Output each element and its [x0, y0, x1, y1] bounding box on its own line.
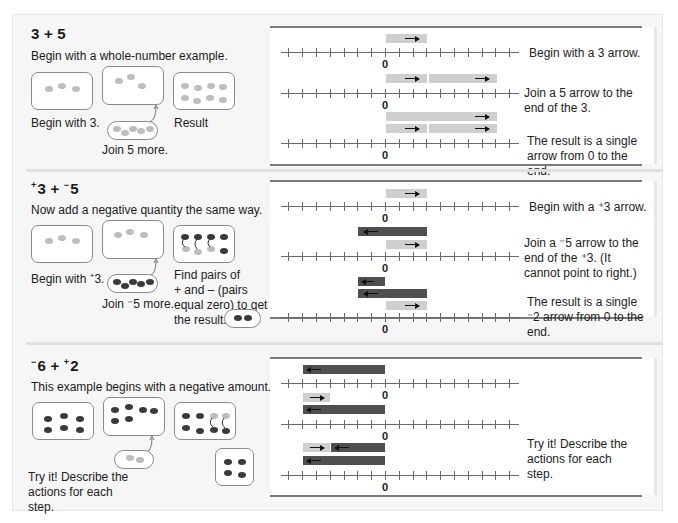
arrow-bar-negative-6 [303, 365, 385, 374]
negative-counter [60, 425, 68, 431]
number-line-tick [399, 379, 400, 388]
counter-box-result [215, 448, 254, 486]
number-line-tick [440, 139, 441, 148]
arrow-bar-negative-6 [303, 405, 385, 414]
counter-box-begin [31, 72, 93, 110]
try-it-prompt: Try it! Describe the actions for each st… [28, 470, 138, 515]
number-line-tick [495, 202, 496, 211]
number-line-tick [413, 471, 414, 480]
number-line-tick [399, 202, 400, 211]
zero-label: 0 [382, 99, 388, 111]
number-line-tick [385, 313, 386, 322]
number-line-tick [316, 139, 317, 148]
number-line-tick [468, 89, 469, 98]
positive-counter [219, 97, 227, 103]
arrow-bar-negative-6 [303, 456, 385, 465]
number-line-tick [371, 313, 372, 322]
negative-counter [76, 416, 84, 422]
positive-counter [45, 238, 53, 244]
negative-counter [150, 408, 158, 414]
right-arrow-icon [405, 78, 419, 79]
number-line-tick [330, 252, 331, 261]
number-line-tick [385, 48, 386, 57]
arrow-bar-positive-2 [303, 393, 330, 402]
number-line-tick [344, 48, 345, 57]
number-line-tick [371, 202, 372, 211]
positive-counter [181, 83, 189, 89]
step-note: The result is a single ⁻2 arrow from 0 t… [527, 295, 645, 340]
positive-counter [206, 95, 214, 101]
section-title: −6 + +2 [31, 357, 79, 374]
number-line-tick [440, 379, 441, 388]
number-line-tick [440, 48, 441, 57]
positive-counter [181, 95, 189, 101]
section-subtitle: Begin with a whole-number example. [31, 49, 228, 63]
number-line-tick [316, 420, 317, 429]
negative-counter [125, 416, 133, 422]
negative-counter [60, 413, 68, 419]
arrow-bar-positive-3 [386, 124, 427, 133]
number-line-tick [413, 420, 414, 429]
number-line-tick [330, 313, 331, 322]
title-number: 3 [37, 180, 46, 197]
number-line-tick [454, 202, 455, 211]
number-line-tick [413, 379, 414, 388]
section-title: 3 + 5 [31, 25, 66, 42]
number-line-tick [509, 252, 510, 261]
negative-counter [121, 283, 129, 289]
number-line-tick [440, 313, 441, 322]
number-line-tick [316, 252, 317, 261]
number-line-tick [357, 379, 358, 388]
number-line-tick [357, 471, 358, 480]
counter-box-join [103, 397, 165, 436]
step-note: Join a 5 arrow to the end of the 3. [524, 86, 634, 116]
number-line-tick [330, 89, 331, 98]
number-line-tick [495, 89, 496, 98]
number-line-tick [288, 471, 289, 480]
number-line-tick [344, 471, 345, 480]
number-line-tick [509, 89, 510, 98]
right-arrow-icon [475, 116, 489, 117]
number-line-tick [468, 202, 469, 211]
number-line-tick [316, 202, 317, 211]
number-line-tick [482, 379, 483, 388]
number-line-tick [454, 379, 455, 388]
negative-counter [224, 459, 232, 465]
positive-counter [207, 83, 215, 89]
number-line-tick [426, 379, 427, 388]
number-line-tick [316, 89, 317, 98]
number-line-tick [426, 420, 427, 429]
number-line-tick [330, 202, 331, 211]
number-line-tick [495, 420, 496, 429]
left-arrow-icon [307, 460, 321, 461]
caption-text: Begin with [31, 272, 90, 286]
number-line-tick [288, 202, 289, 211]
pair-link-icon [174, 226, 236, 264]
arrow-bar-positive-3 [386, 240, 427, 249]
number-line-tick [426, 313, 427, 322]
counter-box-pairs [174, 402, 236, 440]
negative-counter [129, 279, 137, 285]
number-line-tick [302, 420, 303, 429]
zero-label: 0 [382, 212, 388, 224]
caption-line: Find pairs of [174, 268, 274, 283]
number-line-tick [413, 313, 414, 322]
number-line-tick [509, 420, 510, 429]
number-line-tick [371, 139, 372, 148]
negative-counter [238, 472, 246, 478]
number-line-tick [357, 420, 358, 429]
negative-counter [224, 470, 232, 476]
number-line-tick [413, 202, 414, 211]
negative-counter [76, 427, 84, 433]
number-line-tick [509, 48, 510, 57]
negative-counter [238, 459, 246, 465]
number-line-tick [316, 48, 317, 57]
number-line-tick [468, 139, 469, 148]
number-line-tick [357, 202, 358, 211]
number-line-tick [302, 89, 303, 98]
number-line-tick [482, 471, 483, 480]
number-line-tick [371, 379, 372, 388]
number-line-tick [344, 202, 345, 211]
zero-label: 0 [382, 481, 388, 493]
step-note: Begin with a ⁺3 arrow. [529, 200, 646, 215]
